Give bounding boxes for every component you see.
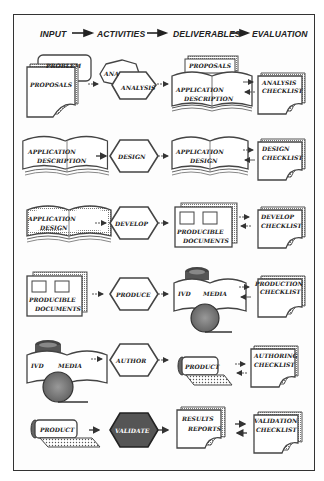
- label-product: PRODUCT: [185, 363, 219, 370]
- label-deliverable-proposals: PROPOSALS: [189, 62, 231, 69]
- label-problem: PROBLEM: [46, 62, 81, 69]
- label-eval-checklist: CHECKLIST: [262, 87, 303, 94]
- label-eval-authoring: AUTHORING: [254, 352, 298, 359]
- label-design: DESIGN: [40, 224, 68, 231]
- label-proposals: PROPOSALS: [30, 81, 72, 88]
- label-eval-checklist: CHECKLIST: [262, 154, 303, 161]
- label-eval-analysis: ANALYSIS: [262, 79, 296, 86]
- label-product: PRODUCT: [40, 426, 74, 433]
- label-ivd: IVD: [31, 362, 44, 369]
- label-validate: VALIDATE: [115, 427, 149, 434]
- label-design: DESIGN: [118, 153, 146, 160]
- label-eval-design: DESIGN: [262, 145, 290, 152]
- product-input-tape: [40, 438, 100, 447]
- label-application: APPLICATION: [176, 148, 224, 155]
- proposals-doc: [27, 67, 75, 117]
- product-tape: [186, 375, 232, 385]
- label-media: MEDIA: [203, 290, 227, 297]
- label-ana: ANA: [104, 70, 119, 77]
- label-author: AUTHOR: [116, 357, 146, 364]
- label-documents: DOCUMENTS: [183, 237, 229, 244]
- row-5: [27, 340, 298, 402]
- label-media: MEDIA: [58, 362, 82, 369]
- label-application: APPLICATION: [28, 215, 76, 222]
- label-eval-checklist: CHECKLIST: [260, 288, 301, 295]
- label-produce: PRODUCE: [116, 291, 151, 298]
- label-producible: PRODUCIBLE: [177, 228, 224, 235]
- label-results: RESULTS: [182, 415, 214, 422]
- label-eval-checklist: CHECKLIST: [261, 222, 302, 229]
- label-description: DESCRIPTION: [37, 157, 86, 164]
- flow-diagram: [0, 0, 324, 481]
- label-eval-production: PRODUCTION: [255, 280, 303, 287]
- videodisc-input: [43, 372, 73, 402]
- label-eval-develop: DEVELOP: [261, 213, 294, 220]
- label-develop: DEVELOP: [115, 220, 148, 227]
- label-application: APPLICATION: [28, 148, 76, 155]
- label-producible: PRODUCIBLE: [29, 296, 76, 303]
- label-ivd: IVD: [178, 290, 191, 297]
- label-eval-validation: VALIDATION: [254, 417, 297, 424]
- label-documents: DOCUMENTS: [35, 305, 81, 312]
- label-description: DESCRIPTION: [184, 95, 233, 102]
- header-arrow: [72, 30, 248, 36]
- label-reports: REPORTS: [188, 425, 221, 432]
- videodisc: [191, 304, 219, 332]
- label-application: APPLICATION: [176, 86, 224, 93]
- label-eval-checklist: CHECKLIST: [254, 361, 295, 368]
- label-eval-checklist: CHECKLIST: [256, 426, 297, 433]
- label-design: DESIGN: [190, 157, 218, 164]
- label-analysis: ANALYSIS: [121, 84, 155, 91]
